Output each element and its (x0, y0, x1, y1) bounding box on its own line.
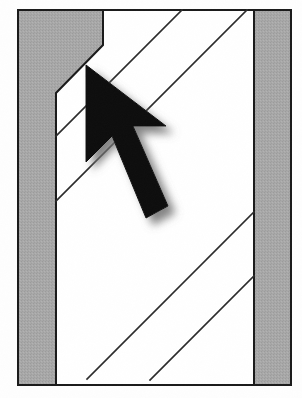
diagram-canvas (0, 0, 302, 398)
figure-svg (0, 0, 302, 398)
paper-grain-overlay (0, 0, 302, 398)
